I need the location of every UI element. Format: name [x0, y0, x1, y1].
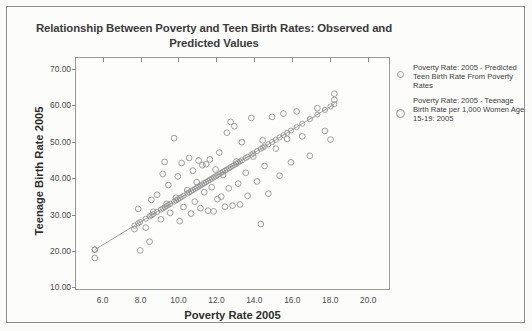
observed-data-point	[328, 137, 334, 143]
observed-data-point	[307, 153, 313, 159]
observed-data-point	[269, 114, 275, 120]
x-axis-tick-label: 6.0	[97, 295, 109, 305]
legend-entry-label: Poverty Rate: 2005 - Predicted Teen Birt…	[413, 63, 529, 91]
observed-data-point	[137, 248, 143, 254]
observed-data-point	[230, 203, 236, 209]
observed-data-point	[167, 210, 173, 216]
observed-data-point	[147, 239, 153, 245]
observed-data-point	[294, 109, 300, 115]
observed-data-point	[198, 205, 204, 211]
observed-data-point	[281, 111, 287, 117]
observed-data-point	[273, 146, 279, 152]
observed-data-point	[92, 255, 98, 261]
x-axis-tick-mark	[103, 58, 104, 62]
observed-data-point	[226, 185, 232, 191]
observed-data-point	[201, 189, 207, 195]
x-axis-tick-label: 18.0	[322, 295, 338, 305]
observed-data-point	[205, 208, 211, 214]
observed-data-point	[154, 192, 160, 198]
legend-entry[interactable]: Poverty Rate: 2005 - Predicted Teen Birt…	[397, 63, 529, 91]
observed-data-point	[262, 163, 268, 169]
observed-data-point	[171, 135, 177, 141]
chart-legend: Poverty Rate: 2005 - Predicted Teen Birt…	[397, 63, 529, 128]
observed-data-point	[194, 179, 200, 185]
observed-data-point	[237, 202, 243, 208]
observed-data-point	[258, 221, 264, 227]
observed-data-point	[179, 160, 185, 166]
observed-data-point	[243, 170, 249, 176]
x-axis-tick-mark	[141, 58, 142, 62]
x-axis-tick-label: 8.0	[135, 295, 147, 305]
observed-data-point	[177, 218, 183, 224]
observed-data-point	[254, 179, 260, 185]
x-axis-title: Poverty Rate 2005	[75, 309, 390, 321]
plot-area: 10.0020.0030.0040.0050.0060.0070.006.08.…	[75, 57, 390, 290]
observed-data-point	[181, 204, 187, 210]
observed-data-point	[143, 225, 149, 231]
legend-entry[interactable]: Poverty Rate: 2005 - Teenage Birth Rate …	[397, 96, 529, 124]
y-axis-tick-mark	[72, 251, 76, 252]
observed-data-point	[314, 105, 320, 111]
y-axis-tick-label: 70.00	[50, 64, 71, 74]
observed-data-point	[166, 182, 172, 188]
y-axis-tick-mark	[72, 215, 76, 216]
observed-data-point	[222, 204, 228, 210]
legend-circle-icon	[396, 109, 405, 118]
x-axis-tick-label: 16.0	[284, 295, 300, 305]
regression-line	[95, 104, 334, 249]
x-axis-tick-mark	[368, 58, 369, 62]
y-axis-tick-label: 10.00	[50, 282, 71, 292]
observed-data-point	[211, 209, 217, 215]
observed-data-point	[235, 181, 241, 187]
observed-data-point	[190, 168, 196, 174]
observed-data-point	[265, 191, 271, 197]
observed-data-point	[213, 167, 219, 173]
y-axis-tick-label: 30.00	[50, 210, 71, 220]
observed-data-point	[260, 137, 266, 143]
x-axis-tick-label: 10.0	[170, 295, 186, 305]
observed-data-point	[158, 216, 164, 222]
observed-data-point	[92, 247, 98, 253]
observed-data-point	[135, 206, 141, 212]
chart-title: Relationship Between Poverty and Teen Bi…	[25, 21, 403, 50]
y-axis-tick-mark	[72, 105, 76, 106]
observed-data-point	[216, 150, 222, 156]
observed-data-point	[175, 174, 181, 180]
observed-data-point	[277, 173, 283, 179]
x-axis-tick-label: 14.0	[246, 295, 262, 305]
y-axis-tick-mark	[72, 287, 76, 288]
x-axis-tick-mark	[178, 58, 179, 62]
plot-canvas	[76, 58, 389, 289]
observed-data-point	[160, 171, 166, 177]
x-axis-tick-label: 12.0	[208, 295, 224, 305]
y-axis-tick-label: 50.00	[50, 137, 71, 147]
observed-data-point	[245, 193, 251, 199]
legend-entry-label: Poverty Rate: 2005 - Teenage Birth Rate …	[413, 96, 529, 124]
observed-data-point	[199, 162, 205, 168]
y-axis-tick-mark	[72, 69, 76, 70]
observed-data-point	[224, 130, 230, 136]
observed-data-point	[132, 226, 138, 232]
x-axis-tick-mark	[254, 58, 255, 62]
observed-data-point	[149, 197, 155, 203]
observed-data-point	[192, 199, 198, 205]
y-axis-tick-label: 60.00	[50, 100, 71, 110]
y-axis-title: Teenage Birth Rate 2005	[33, 51, 45, 291]
observed-data-point	[288, 159, 294, 165]
y-axis-tick-mark	[72, 178, 76, 179]
observed-data-point	[331, 91, 337, 97]
y-axis-tick-mark	[72, 142, 76, 143]
y-axis-tick-label: 20.00	[50, 246, 71, 256]
x-axis-tick-mark	[330, 58, 331, 62]
observed-data-point	[248, 115, 254, 121]
observed-data-point	[239, 139, 245, 145]
x-axis-tick-mark	[292, 58, 293, 62]
observed-data-point	[299, 133, 305, 139]
observed-data-point	[188, 211, 194, 217]
y-axis-tick-label: 40.00	[50, 173, 71, 183]
observed-data-point	[232, 123, 238, 129]
chart-outer-frame: Relationship Between Poverty and Teen Bi…	[6, 6, 525, 323]
observed-data-point	[186, 155, 192, 161]
observed-data-point	[284, 136, 290, 142]
observed-data-point	[162, 159, 168, 165]
